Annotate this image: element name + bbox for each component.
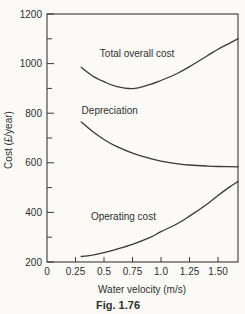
x-tick-label: 1.25: [180, 266, 200, 277]
y-tick-label: 200: [25, 257, 42, 268]
y-tick-label: 800: [25, 108, 42, 119]
x-tick-label: 1.50: [208, 266, 228, 277]
x-tick-label: 0.75: [123, 266, 143, 277]
y-tick-label: 1000: [20, 58, 43, 69]
y-tick-label: 600: [25, 157, 42, 168]
series-label-depreciation: Depreciation: [82, 105, 138, 116]
x-tick-label: 0.5: [97, 266, 111, 277]
y-tick-label: 1200: [20, 9, 43, 20]
curves-layer: [81, 39, 238, 257]
curve-depreciation: [81, 122, 238, 167]
curve-total-overall-cost: [81, 39, 238, 89]
x-tick-label: 0: [44, 266, 50, 277]
x-tick-label: 1.0: [154, 266, 168, 277]
y-axis-title: Cost (£/year): [3, 111, 14, 169]
series-label-total-overall-cost: Total overall cost: [100, 48, 175, 59]
figure-caption: Fig. 1.76: [96, 299, 140, 311]
x-axis-title: Water velocity (m/s): [98, 284, 186, 295]
cost-vs-water-velocity-chart: 2004006008001000120000.250.50.751.01.251…: [0, 0, 245, 314]
x-tick-label: 0.25: [66, 266, 86, 277]
figure-container: 2004006008001000120000.250.50.751.01.251…: [0, 0, 245, 314]
series-label-operating-cost: Operating cost: [91, 211, 156, 222]
y-tick-label: 400: [25, 207, 42, 218]
